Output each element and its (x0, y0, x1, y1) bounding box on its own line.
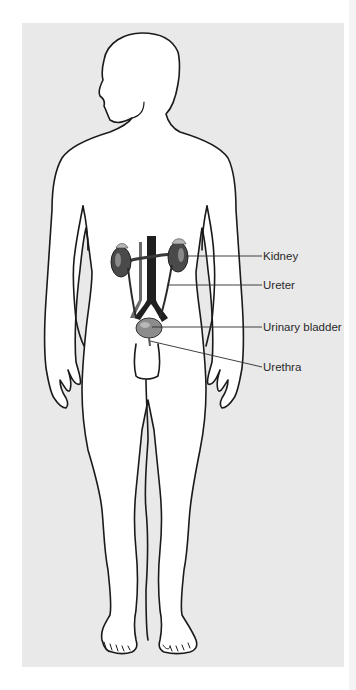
label-urethra: Urethra (263, 361, 301, 373)
label-kidney: Kidney (263, 250, 298, 262)
body-outline (45, 33, 244, 654)
label-ureter: Ureter (263, 279, 295, 291)
human-body-figure (0, 0, 356, 690)
urethra-icon (149, 338, 150, 346)
bladder-icon (136, 318, 162, 338)
label-urinary-bladder: Urinary bladder (263, 321, 342, 333)
